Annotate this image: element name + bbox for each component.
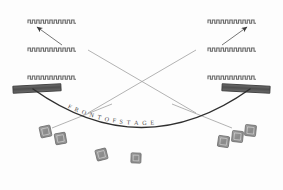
block-right-2: [231, 130, 243, 142]
upper-left-row: [28, 20, 76, 23]
block-center-2: [131, 153, 141, 163]
block-right-1: [217, 135, 229, 147]
block-right-3: [244, 124, 256, 136]
stage-plan-diagram: F R O N T O F S T A G E: [0, 0, 283, 190]
block-left-1: [39, 125, 52, 138]
block-right-1-group: [217, 135, 229, 147]
block-center-1: [95, 148, 108, 161]
block-right-3-group: [244, 124, 256, 136]
middle-left-row: [28, 48, 76, 51]
front-of-stage-label: F R O N T O F S T A G E: [67, 102, 154, 126]
block-right-2-group: [231, 130, 243, 142]
sightline-cross-group: [88, 50, 196, 113]
middle-right-row: [208, 48, 256, 51]
direction-arrow-group: [37, 27, 247, 45]
floor-block-group: [39, 124, 257, 163]
right-arrow: [222, 27, 247, 45]
lower-right-row: [208, 76, 256, 79]
upper-right-row: [208, 20, 256, 23]
lower-left-row: [28, 76, 76, 79]
left-arrow: [37, 27, 62, 45]
seating-row-group: [28, 20, 256, 79]
block-left-1-group: [39, 125, 52, 138]
block-center-2-group: [131, 153, 141, 163]
block-left-2-group: [54, 132, 67, 145]
block-left-2: [54, 132, 67, 145]
block-center-1-group: [95, 148, 108, 161]
plan-canvas: F R O N T O F S T A G E: [0, 0, 283, 190]
stage-bar-group: [13, 84, 270, 94]
